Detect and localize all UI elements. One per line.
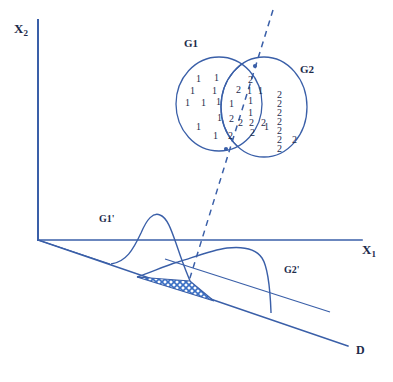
data-point-g2: 2: [248, 75, 253, 85]
data-point-g1: 1: [212, 86, 217, 96]
y-axis-label-sub: 2: [23, 28, 28, 38]
overlap-hatched-region: [137, 277, 214, 301]
boundary-node-top: [253, 64, 257, 68]
g1p-baseline: [38, 240, 110, 264]
data-point-g1: 1: [185, 98, 190, 108]
data-point-g2: 2: [228, 131, 233, 141]
data-point-g2: 2: [229, 114, 234, 124]
data-point-g1: 1: [217, 113, 222, 123]
data-point-g1: 1: [216, 97, 221, 107]
boundary-node-ellipse-bottom: [224, 147, 228, 151]
y-axis-label: X2: [14, 22, 28, 35]
data-point-g2: 2: [236, 85, 241, 95]
data-point-g1: 1: [196, 122, 201, 132]
data-point-g2: 2: [292, 135, 297, 145]
data-point-g1: 1: [190, 86, 195, 96]
group-label-g1: G1: [184, 38, 198, 49]
data-point-g1: 1: [248, 96, 253, 106]
data-point-g1: 1: [258, 86, 263, 96]
x-axis-label-text: X: [362, 242, 371, 257]
group-ellipses: [176, 57, 307, 157]
discriminant-diagram: X2 X1 D G1 G2 G1' G2' 111111111111111122…: [0, 0, 393, 382]
data-point-g2: 2: [261, 118, 266, 128]
density-curve-g1-prime: [111, 214, 190, 281]
data-point-g2: 2: [238, 118, 243, 128]
y-axis-label-text: X: [14, 21, 23, 36]
data-point-g1: 1: [201, 98, 206, 108]
distribution-label-g2-prime: G2': [284, 265, 300, 275]
data-point-g1: 1: [214, 73, 219, 83]
group-label-g2: G2: [300, 64, 314, 75]
data-point-g2: 2: [250, 128, 255, 138]
distribution-label-g1-prime: G1': [99, 214, 115, 224]
data-point-g1: 1: [213, 131, 218, 141]
data-point-g1: 1: [229, 99, 234, 109]
x-axis-label: X1: [362, 243, 376, 256]
d-axis-label: D: [356, 344, 365, 356]
x-axis-label-sub: 1: [371, 249, 376, 259]
diagram-canvas: [0, 0, 393, 382]
data-point-g2: 2: [277, 144, 282, 154]
data-point-g1: 1: [196, 74, 201, 84]
